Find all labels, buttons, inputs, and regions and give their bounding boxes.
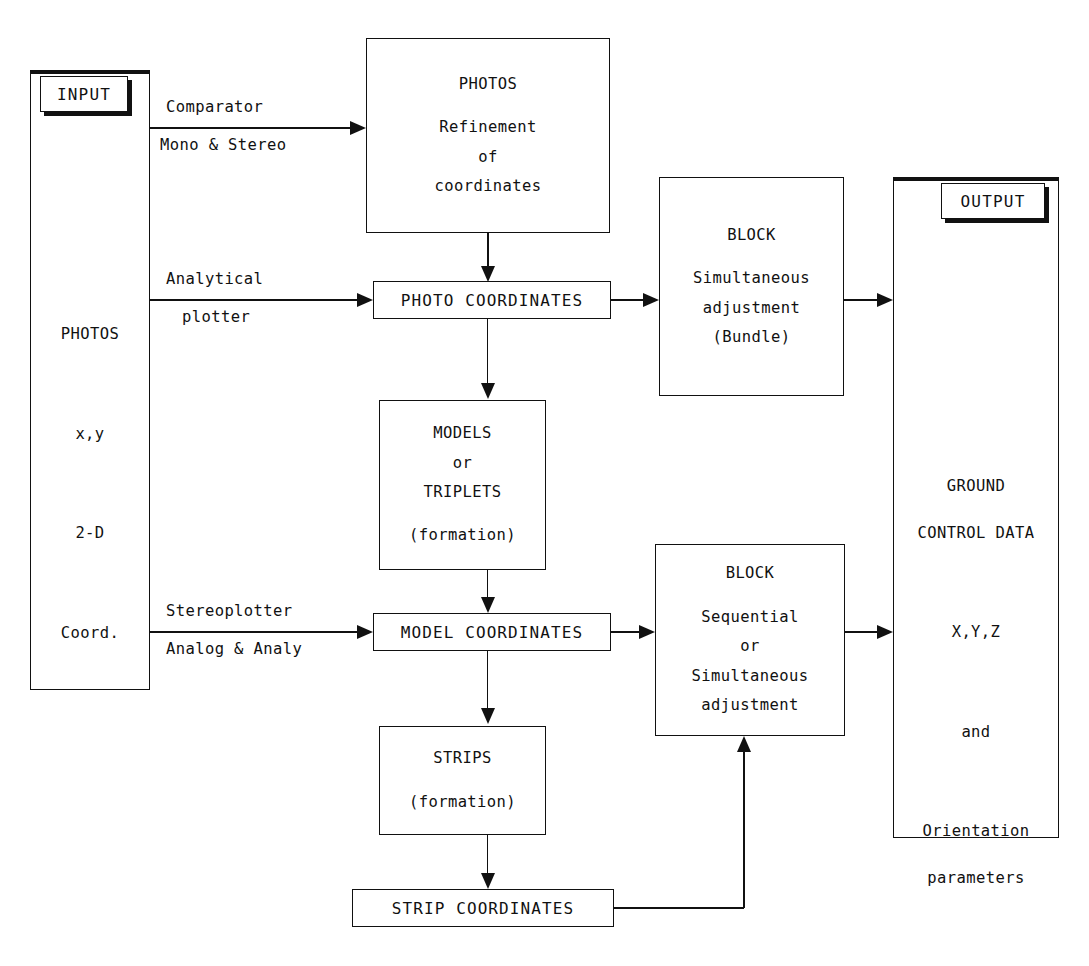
output-line-4: Orientation [893,824,1059,840]
node-strips: STRIPS (formation) [379,726,546,835]
output-line-2: X,Y,Z [893,625,1059,641]
photos-refinement-line-0: PHOTOS [459,70,517,99]
edge-comparator-label-below: Mono & Stereo [160,136,287,154]
edge-comparator-label-above: Comparator [166,98,263,116]
edge-input-to-model-coords-arrowhead [357,625,373,639]
block-sequential-line-1: Sequential [701,603,798,632]
edge-model-coords-to-block-sequential [611,631,641,633]
photos-refinement-line-2: of [478,143,497,172]
models-triplets-line-1: or [453,449,472,478]
edge-photo-coords-to-block-bundle [611,299,645,301]
node-model-coordinates: MODEL COORDINATES [373,613,611,651]
input-column-text: PHOTOS x,y 2-D Coord. [30,296,150,672]
edge-model-coords-to-strips-arrowhead [481,708,495,724]
input-line-3: Coord. [30,626,150,642]
block-sequential-line-3: Simultaneous [692,662,809,691]
models-triplets-line-3: (formation) [409,521,516,550]
flowchart-canvas: INPUT PHOTOS x,y 2-D Coord. OUTPUT GROUN… [0,0,1089,966]
output-column-text: GROUND CONTROL DATA X,Y,Z and Orientatio… [893,448,1059,917]
edge-model-coords-to-strips [487,651,488,709]
edge-photo-coords-to-models-arrowhead [481,383,495,399]
model-coordinates-label: MODEL COORDINATES [401,623,583,642]
edge-stereoplotter-label-below: Analog & Analy [166,640,302,658]
strips-line-1: (formation) [409,788,516,817]
input-line-0: PHOTOS [30,327,150,343]
output-label-chip: OUTPUT [941,183,1045,219]
node-photos-refinement: PHOTOS Refinement of coordinates [366,38,610,233]
edge-strips-to-strip-coords-arrowhead [481,873,495,889]
edge-input-to-photo-coords [150,299,359,301]
block-sequential-line-4: adjustment [701,691,798,720]
output-line-1: CONTROL DATA [893,526,1059,542]
edge-model-coords-to-block-sequential-arrowhead [639,625,655,639]
edge-input-to-photos [150,127,352,129]
block-bundle-line-3: (Bundle) [713,323,791,352]
node-photo-coordinates: PHOTO COORDINATES [373,281,611,319]
node-block-sequential: BLOCK Sequential or Simultaneous adjustm… [655,544,845,736]
edge-block-bundle-to-output [844,299,880,301]
edge-strip-coords-to-block-sequential-horizontal [614,907,744,909]
output-line-3: and [893,725,1059,741]
input-label-chip: INPUT [40,76,128,112]
node-block-bundle: BLOCK Simultaneous adjustment (Bundle) [659,177,844,396]
edge-analytical-label-above: Analytical [166,270,263,288]
edge-photo-coords-to-models [487,319,488,386]
edge-strips-to-strip-coords [487,835,488,875]
node-strip-coordinates: STRIP COORDINATES [352,889,614,927]
models-triplets-line-0: MODELS [433,419,491,448]
input-line-2: 2-D [30,526,150,542]
strips-line-0: STRIPS [433,744,491,773]
input-label-text: INPUT [57,85,111,104]
edge-photo-coords-to-block-bundle-arrowhead [643,293,659,307]
photos-refinement-line-3: coordinates [434,172,541,201]
edge-analytical-label-below: plotter [182,308,250,326]
edge-block-sequential-to-output-arrowhead [877,625,893,639]
edge-stereoplotter-label-above: Stereoplotter [166,602,293,620]
edge-strip-coords-to-block-sequential-vertical [743,752,745,908]
edge-models-to-model-coords-arrowhead [481,597,495,613]
models-triplets-line-2: TRIPLETS [424,478,502,507]
edge-input-to-photos-arrowhead [350,121,366,135]
edge-block-sequential-to-output [845,631,880,633]
input-line-1: x,y [30,427,150,443]
edge-photos-to-photo-coords [487,233,489,269]
node-models-triplets: MODELS or TRIPLETS (formation) [379,400,546,570]
block-sequential-line-0: BLOCK [726,559,775,588]
edge-block-bundle-to-output-arrowhead [877,293,893,307]
edge-input-to-photo-coords-arrowhead [357,293,373,307]
block-bundle-line-1: Simultaneous [693,264,810,293]
block-bundle-line-0: BLOCK [727,221,776,250]
edge-models-to-model-coords [487,570,488,599]
edge-strip-coords-to-block-sequential-arrowhead [737,736,751,752]
photo-coordinates-label: PHOTO COORDINATES [401,291,583,310]
edge-photos-to-photo-coords-arrowhead [481,266,495,282]
edge-input-to-model-coords [150,631,359,633]
photos-refinement-line-1: Refinement [439,113,536,142]
block-bundle-line-2: adjustment [703,294,800,323]
block-sequential-line-2: or [740,632,759,661]
output-label-text: OUTPUT [961,192,1026,211]
strip-coordinates-label: STRIP COORDINATES [392,899,574,918]
output-line-5: parameters [893,871,1059,887]
output-line-0: GROUND [893,479,1059,495]
